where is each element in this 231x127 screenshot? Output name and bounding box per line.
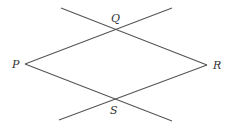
line-through-p-s — [25, 64, 172, 121]
line-through-s-r — [59, 65, 207, 120]
label-s: S — [110, 104, 118, 117]
label-r: R — [212, 59, 221, 72]
label-q: Q — [111, 12, 120, 25]
line-through-q-r — [61, 8, 207, 65]
line-through-p-q — [25, 8, 172, 64]
label-p: P — [11, 58, 20, 71]
geometry-diagram: P Q R S — [0, 0, 231, 127]
